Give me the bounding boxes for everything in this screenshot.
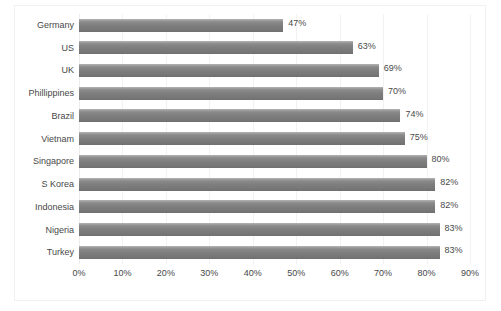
x-tick-label-90%: 90% [461, 268, 479, 278]
bar-row: 83% [79, 219, 470, 242]
category-label-phillippines: Phillippines [28, 82, 74, 105]
bar-phillippines[interactable] [79, 87, 383, 100]
x-tick-label-60%: 60% [331, 268, 349, 278]
x-tick-label-70%: 70% [374, 268, 392, 278]
bar-value-label: 83% [445, 244, 463, 257]
category-label-us: US [61, 37, 74, 60]
bar-chart: 47%63%69%70%74%75%80%82%82%83%83% German… [0, 0, 501, 311]
category-label-nigeria: Nigeria [45, 219, 74, 242]
bar-row: 83% [79, 241, 470, 264]
bar-value-label: 75% [410, 131, 428, 144]
x-tick-label-10%: 10% [113, 268, 131, 278]
bar-row: 74% [79, 105, 470, 128]
bar-value-label: 69% [384, 62, 402, 75]
x-tick-label-80%: 80% [418, 268, 436, 278]
bar-value-label: 83% [445, 222, 463, 235]
x-tick-label-20%: 20% [157, 268, 175, 278]
bar-brazil[interactable] [79, 109, 400, 122]
bar-value-label: 63% [358, 40, 376, 53]
bar-row: 82% [79, 173, 470, 196]
bar-rows: 47%63%69%70%74%75%80%82%82%83%83% [79, 14, 470, 264]
bar-value-label: 47% [288, 17, 306, 30]
bar-row: 69% [79, 59, 470, 82]
bar-value-label: 70% [388, 85, 406, 98]
x-tick-label-50%: 50% [287, 268, 305, 278]
category-label-germany: Germany [37, 14, 74, 37]
bar-row: 82% [79, 196, 470, 219]
category-label-indonesia: Indonesia [35, 196, 74, 219]
bar-singapore[interactable] [79, 155, 427, 168]
bar-nigeria[interactable] [79, 223, 440, 236]
bar-value-label: 82% [440, 199, 458, 212]
bar-value-label: 82% [440, 176, 458, 189]
bar-us[interactable] [79, 41, 353, 54]
gridline-90% [470, 14, 471, 264]
bar-row: 47% [79, 14, 470, 37]
x-tick-label-30%: 30% [200, 268, 218, 278]
bar-s-korea[interactable] [79, 178, 435, 191]
category-label-s-korea: S Korea [41, 173, 74, 196]
x-axis-tick-labels: 0%10%20%30%40%50%60%70%80%90% [79, 268, 470, 286]
x-tick-label-0%: 0% [72, 268, 85, 278]
plot-area: 47%63%69%70%74%75%80%82%82%83%83% [79, 14, 470, 264]
bar-row: 80% [79, 150, 470, 173]
bar-row: 63% [79, 37, 470, 60]
category-label-singapore: Singapore [33, 150, 74, 173]
bar-value-label: 80% [432, 153, 450, 166]
bar-row: 75% [79, 128, 470, 151]
category-label-vietnam: Vietnam [41, 128, 74, 151]
bar-value-label: 74% [405, 108, 423, 121]
x-tick-label-40%: 40% [244, 268, 262, 278]
bar-germany[interactable] [79, 19, 283, 32]
bar-uk[interactable] [79, 64, 379, 77]
bar-row: 70% [79, 82, 470, 105]
category-label-uk: UK [61, 59, 74, 82]
category-label-turkey: Turkey [47, 241, 74, 264]
bar-indonesia[interactable] [79, 200, 435, 213]
bar-vietnam[interactable] [79, 132, 405, 145]
category-label-brazil: Brazil [51, 105, 74, 128]
bar-turkey[interactable] [79, 246, 440, 259]
category-axis-labels: GermanyUSUKPhillippinesBrazilVietnamSing… [14, 14, 74, 264]
